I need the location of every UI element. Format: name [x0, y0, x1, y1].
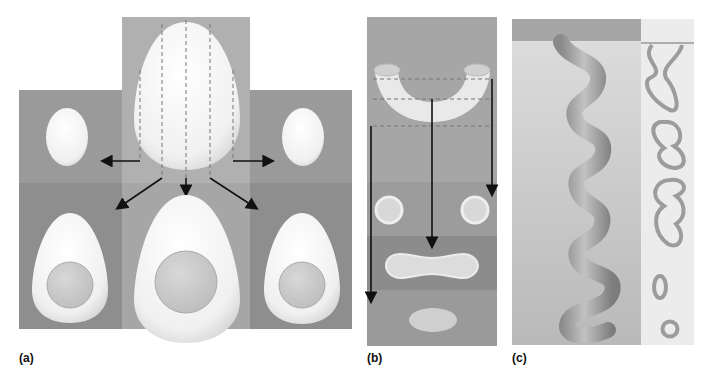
- panel-a-label: (a): [19, 351, 34, 365]
- tube-section-dumbbell: [386, 254, 478, 278]
- panel-a: [19, 17, 352, 343]
- panel-b-label: (b): [367, 351, 382, 365]
- yolk-center: [155, 251, 217, 313]
- panel-c: [512, 19, 694, 345]
- panel-b: [367, 17, 497, 346]
- panel-c-label: (c): [512, 351, 527, 365]
- yolk-left: [47, 262, 93, 308]
- egg-section-outer-right: [282, 108, 324, 166]
- diagram-canvas: [0, 0, 710, 377]
- tube-section-ring-right: [462, 197, 488, 223]
- egg-section-outer-left: [46, 108, 88, 166]
- tube-section-ring-left: [376, 197, 402, 223]
- yolk-right: [279, 262, 325, 308]
- tube-section-oval: [409, 308, 457, 332]
